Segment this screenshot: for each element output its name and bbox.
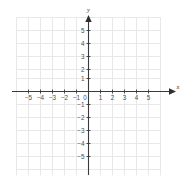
x-tick-label: 2 <box>111 94 115 101</box>
y-tick-label: 3 <box>81 53 85 60</box>
y-tick-label: −3 <box>77 127 85 134</box>
origin-label: 0 <box>83 94 87 101</box>
coordinate-plane-svg: −5 −4 −3 −2 −1 0 1 2 3 4 5 5 4 3 2 1 −1 … <box>0 0 182 189</box>
x-tick-label: −2 <box>61 94 69 101</box>
x-tick-label: −1 <box>73 94 81 101</box>
y-tick-label: 1 <box>81 75 85 82</box>
y-tick-label: 5 <box>81 27 85 34</box>
y-tick-label: −2 <box>77 114 85 121</box>
y-tick-label: 2 <box>81 66 85 73</box>
y-tick-label: −1 <box>77 101 85 108</box>
x-tick-label: 4 <box>135 94 139 101</box>
x-tick-label: 1 <box>99 94 103 101</box>
x-tick-label: 3 <box>123 94 127 101</box>
y-tick-label: −5 <box>77 153 85 160</box>
y-tick-label: 4 <box>81 40 85 47</box>
y-axis-label: y <box>86 6 90 13</box>
coordinate-plane-figure: −5 −4 −3 −2 −1 0 1 2 3 4 5 5 4 3 2 1 −1 … <box>0 0 182 189</box>
x-tick-label: −3 <box>49 94 57 101</box>
x-tick-label: −5 <box>25 94 33 101</box>
x-tick-label: −4 <box>37 94 45 101</box>
x-tick-label: 5 <box>147 94 151 101</box>
y-tick-label: −4 <box>77 140 85 147</box>
x-axis-label: x <box>176 83 180 90</box>
